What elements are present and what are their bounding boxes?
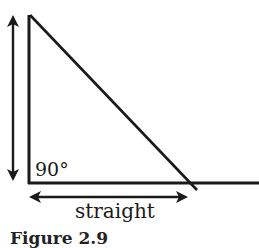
right-angle-label: 90° [35, 158, 69, 180]
figure-caption: Figure 2.9 [10, 228, 108, 248]
base-label: straight [75, 199, 155, 223]
